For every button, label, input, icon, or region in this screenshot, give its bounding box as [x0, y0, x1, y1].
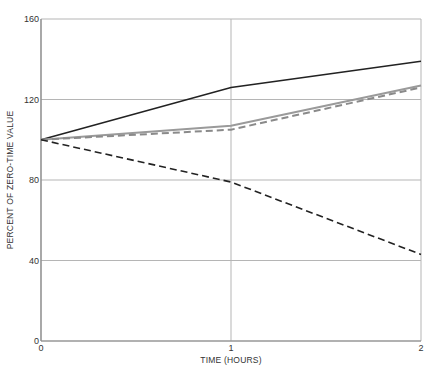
- y-axis-title: PERCENT OF ZERO-TIME VALUE: [5, 111, 15, 250]
- y-tick-label: 120: [24, 95, 39, 105]
- x-tick-label: 0: [38, 343, 43, 353]
- axis-labels: 04080120160012: [24, 14, 424, 353]
- y-tick-label: 80: [29, 175, 39, 185]
- line-chart: 04080120160012 TIME (HOURS) PERCENT OF Z…: [0, 0, 435, 376]
- grid-lines: [41, 19, 421, 341]
- x-axis-title: TIME (HOURS): [200, 355, 261, 365]
- x-tick-label: 2: [418, 343, 423, 353]
- x-tick-label: 1: [228, 343, 233, 353]
- y-tick-label: 40: [29, 256, 39, 266]
- y-tick-label: 160: [24, 14, 39, 24]
